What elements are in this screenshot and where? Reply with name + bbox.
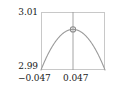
plot-area [41, 12, 105, 70]
chart-figure: 3.01 2.99 −0.047 0.047 [0, 0, 115, 94]
y-axis-tick-label-bottom: 2.99 [18, 62, 38, 71]
x-axis-tick-label-left: −0.047 [18, 74, 51, 83]
y-axis-tick-label-top: 3.01 [18, 8, 38, 17]
x-axis-tick-label-right: 0.047 [63, 74, 88, 83]
